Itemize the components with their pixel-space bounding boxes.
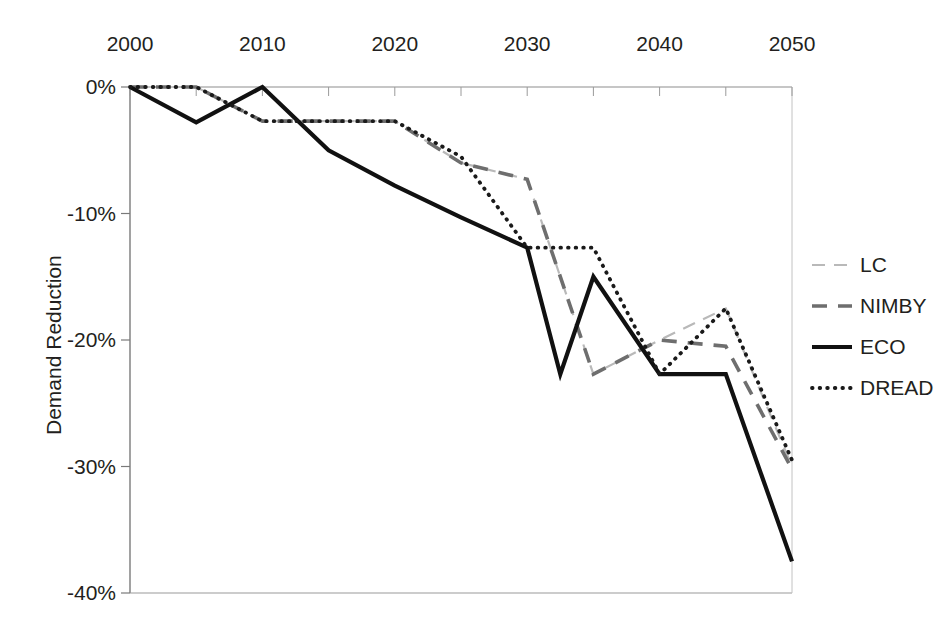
chart-plot-area [0,0,950,638]
x-tick-label-2030: 2030 [504,32,551,56]
x-tick-label-2020: 2020 [371,32,418,56]
data-series-group [130,87,792,561]
axis-ticks [121,87,792,593]
x-tick-label-2040: 2040 [636,32,683,56]
y-tick-label-neg30pct: -30% [0,455,116,479]
chart-container: 200020102020203020402050 0%-10%-20%-30%-… [0,0,950,638]
x-tick-label-2000: 2000 [107,32,154,56]
legend-item-eco: ECO [860,335,906,359]
y-tick-label-0pct: 0% [0,75,116,99]
y-tick-label-neg10pct: -10% [0,202,116,226]
series-line-nimby [130,87,792,469]
x-tick-label-2050: 2050 [769,32,816,56]
y-axis-title: Demand Reduction [42,255,66,435]
legend-item-lc: LC [860,253,887,277]
legend-swatch-group [812,265,852,388]
y-tick-label-neg40pct: -40% [0,581,116,605]
x-tick-label-2010: 2010 [239,32,286,56]
series-line-lc [130,87,792,467]
series-line-dread [130,87,792,460]
legend-item-dread: DREAD [860,376,934,400]
legend-item-nimby: NIMBY [860,294,927,318]
